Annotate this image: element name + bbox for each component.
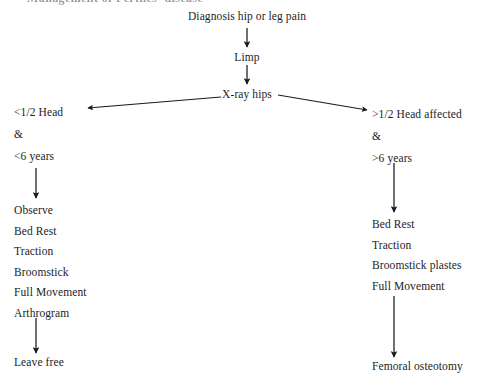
treatment-right-item: Bed Rest [372,214,462,235]
treatment-right-item: Broomstick plastes [372,255,462,276]
truncated-caption-above: Management of Perthes' disease [0,0,487,7]
treatment-left-item: Traction [14,241,87,262]
condition-right-line-3: >6 years [372,147,462,169]
condition-left-line-3: <6 years [14,145,63,167]
node-limp: Limp [234,51,259,63]
treatment-left-item: Observe [14,200,87,221]
treatment-right-item: Full Movement [372,276,462,297]
outcome-left: Leave free [14,356,64,368]
treatment-left-item: Bed Rest [14,221,87,242]
condition-right: >1/2 Head affected & >6 years [372,103,462,169]
flowchart-canvas: Management of Perthes' disease Diagnosis… [0,0,487,386]
treatment-left-item: Arthrogram [14,303,87,324]
treatment-left-item: Broomstick [14,262,87,283]
treatment-list-left: Observe Bed Rest Traction Broomstick Ful… [14,200,87,323]
condition-right-line-2: & [372,125,462,147]
condition-right-line-1: >1/2 Head affected [372,103,462,125]
outcome-right: Femoral osteotomy [372,360,463,372]
condition-left-line-2: & [14,123,63,145]
treatment-left-item: Full Movement [14,282,87,303]
edge-xray-to-left-condition [88,97,221,108]
node-diagnosis: Diagnosis hip or leg pain [188,10,306,22]
condition-left: <1/2 Head & <6 years [14,101,63,167]
node-xray-hips: X-ray hips [222,88,272,100]
edge-xray-to-right-condition [278,95,367,110]
treatment-right-item: Traction [372,235,462,256]
treatment-list-right: Bed Rest Traction Broomstick plastes Ful… [372,214,462,296]
condition-left-line-1: <1/2 Head [14,101,63,123]
